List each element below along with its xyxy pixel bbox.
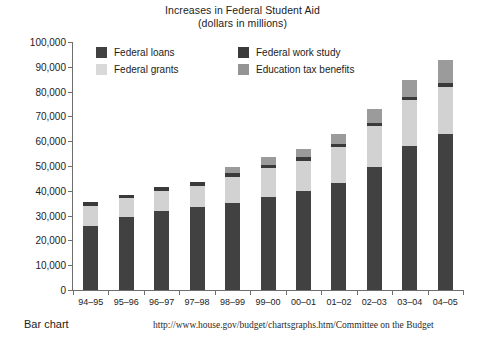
x-axis-tick-label: 01–02 <box>326 297 351 307</box>
bar-column <box>190 182 205 290</box>
y-axis-tick-mark <box>68 265 73 266</box>
bar-segment-federal-grants <box>367 126 382 167</box>
x-axis-tick-mark <box>286 290 287 295</box>
x-axis-tick-mark <box>179 290 180 295</box>
bar-column <box>83 202 98 290</box>
bar-column <box>225 167 240 290</box>
x-axis-tick-mark <box>144 290 145 295</box>
bar-segment-federal-loans <box>154 211 169 290</box>
bar-segment-federal-grants <box>261 168 276 197</box>
chart-title: Increases in Federal Student Aid <box>0 4 485 17</box>
bar-column <box>296 149 311 290</box>
bar-segment-federal-grants <box>190 186 205 207</box>
bar-segment-federal-loans <box>331 183 346 290</box>
bar-segment-education-tax-benefits <box>367 109 382 123</box>
legend-label: Federal work study <box>256 47 340 58</box>
x-axis-tick-label: 97–98 <box>185 297 210 307</box>
y-axis-tick-mark <box>68 216 73 217</box>
chart-figure: Increases in Federal Student Aid (dollar… <box>0 0 485 342</box>
bar-segment-education-tax-benefits <box>402 80 417 96</box>
x-axis-tick-label: 95–96 <box>114 297 139 307</box>
bar-column <box>331 134 346 290</box>
x-axis-tick-mark <box>321 290 322 295</box>
x-axis-tick-label: 99–00 <box>255 297 280 307</box>
plot-area: 100,00090,00080,00070,00060,00050,00040,… <box>73 42 463 290</box>
legend-label: Education tax benefits <box>256 64 354 75</box>
bar-segment-federal-loans <box>296 191 311 290</box>
bar-column <box>438 60 453 290</box>
bar-column <box>154 187 169 290</box>
chart-legend: Federal loansFederal work studyFederal g… <box>96 44 386 78</box>
bar-segment-federal-grants <box>296 161 311 191</box>
bar-segment-education-tax-benefits <box>261 157 276 164</box>
bar-segment-federal-loans <box>402 146 417 290</box>
bar-column <box>119 195 134 290</box>
y-axis-tick-mark <box>68 42 73 43</box>
bar-segment-federal-loans <box>190 207 205 290</box>
bar-segment-federal-grants <box>402 100 417 146</box>
y-axis-tick-mark <box>68 166 73 167</box>
x-axis-tick-mark <box>428 290 429 295</box>
x-axis-tick-mark <box>357 290 358 295</box>
x-axis-tick-label: 03–04 <box>397 297 422 307</box>
bar-segment-education-tax-benefits <box>331 134 346 144</box>
legend-label: Federal loans <box>114 47 175 58</box>
x-axis-tick-label: 94–95 <box>78 297 103 307</box>
x-axis-tick-mark <box>392 290 393 295</box>
legend-item: Federal loans <box>96 47 238 58</box>
bar-column <box>261 157 276 290</box>
y-axis-tick-label: 100,000 <box>30 37 73 48</box>
x-axis-tick-mark <box>463 290 464 295</box>
bar-segment-education-tax-benefits <box>438 60 453 83</box>
bar-segment-federal-loans <box>367 167 382 290</box>
bar-segment-federal-loans <box>438 134 453 290</box>
legend-item: Education tax benefits <box>238 64 388 75</box>
bar-column <box>367 109 382 290</box>
bar-segment-federal-loans <box>83 226 98 290</box>
bar-segment-federal-grants <box>154 191 169 211</box>
x-axis-tick-label: 98–99 <box>220 297 245 307</box>
chart-title-block: Increases in Federal Student Aid (dollar… <box>0 4 485 30</box>
legend-item: Federal grants <box>96 64 238 75</box>
legend-swatch-icon <box>96 47 107 58</box>
bar-segment-federal-loans <box>261 197 276 290</box>
y-axis-tick-mark <box>68 67 73 68</box>
bar-segment-federal-grants <box>225 177 240 203</box>
bar-segment-federal-loans <box>119 217 134 290</box>
x-axis-tick-mark <box>250 290 251 295</box>
y-axis-tick-mark <box>68 141 73 142</box>
chart-subtitle: (dollars in millions) <box>0 17 485 30</box>
footer-caption: Bar chart <box>24 318 69 330</box>
y-axis-tick-mark <box>68 116 73 117</box>
x-axis-line <box>72 290 463 291</box>
x-axis-tick-label: 02–03 <box>362 297 387 307</box>
x-axis-tick-mark <box>108 290 109 295</box>
y-axis-tick-mark <box>68 240 73 241</box>
y-axis-tick-mark <box>68 92 73 93</box>
legend-swatch-icon <box>96 64 107 75</box>
legend-swatch-icon <box>238 47 249 58</box>
y-axis-tick-mark <box>68 191 73 192</box>
x-axis-tick-label: 00–01 <box>291 297 316 307</box>
x-axis-tick-label: 96–97 <box>149 297 174 307</box>
legend-item: Federal work study <box>238 47 388 58</box>
footer-source-url: http://www.house.gov/budget/chartsgraphs… <box>153 320 434 330</box>
legend-label: Federal grants <box>114 64 178 75</box>
bar-segment-federal-grants <box>83 206 98 226</box>
x-axis-tick-mark <box>73 290 74 295</box>
bar-segment-federal-grants <box>438 87 453 134</box>
x-axis-tick-mark <box>215 290 216 295</box>
bar-segment-federal-grants <box>119 198 134 217</box>
x-axis-tick-label: 04–05 <box>433 297 458 307</box>
bar-segment-education-tax-benefits <box>296 149 311 158</box>
bar-segment-federal-grants <box>331 147 346 183</box>
bar-column <box>402 80 417 290</box>
bar-segment-federal-loans <box>225 203 240 290</box>
legend-swatch-icon <box>238 64 249 75</box>
